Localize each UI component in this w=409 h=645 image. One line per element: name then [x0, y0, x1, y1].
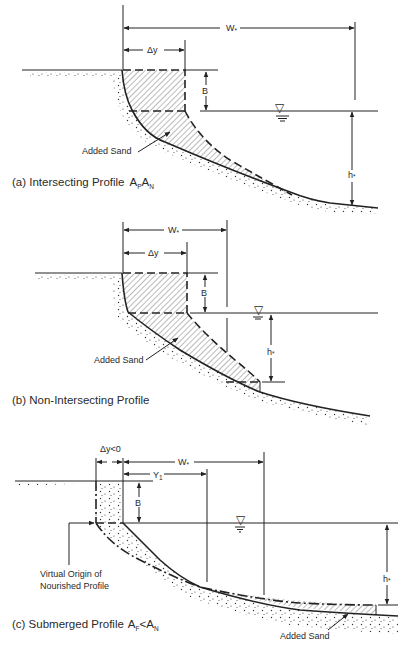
- water-level-icon: ▽: [275, 101, 285, 115]
- panel-b-non-intersecting-profile: ▽ W* Δy B h* Added Sand (b) Non-Intersec…: [12, 220, 378, 426]
- water-level-icon: ▽: [236, 513, 246, 527]
- label-h-star: h*: [383, 574, 391, 584]
- water-level-icon: ▽: [254, 303, 264, 317]
- label-h-star: h*: [348, 170, 356, 180]
- label-virtual-origin-line2: Nourished Profile: [40, 581, 109, 591]
- water-level-ticks: [253, 317, 263, 319]
- label-added-sand: Added Sand: [94, 355, 144, 365]
- label-b: B: [201, 288, 207, 298]
- caption-c: (c) Submerged ProfileAF<AN: [12, 618, 159, 632]
- caption-a: (a) Intersecting ProfileAPAN: [12, 176, 154, 190]
- water-level-ticks: [235, 527, 245, 532]
- label-h-star: h*: [267, 347, 275, 357]
- label-added-sand: Added Sand: [82, 146, 132, 156]
- label-y1: Y1: [153, 470, 163, 481]
- virtual-origin-pointer: [69, 523, 94, 565]
- water-level-ticks: [276, 116, 289, 121]
- nourished-profile-line: [96, 523, 376, 605]
- label-b: B: [202, 86, 208, 96]
- sand-texture: [18, 483, 398, 634]
- label-b: B: [135, 498, 141, 508]
- label-w-star: W*: [226, 23, 238, 34]
- caption-b: (b) Non-Intersecting Profile: [12, 394, 149, 406]
- panel-a-intersecting-profile: ▽ W* Δy B h* Added Sand (a) Intersecting…: [12, 5, 378, 214]
- beach-nourishment-profiles-diagram: ▽ W* Δy B h* Added Sand (a) Intersecting…: [0, 0, 409, 645]
- label-w-star: W*: [178, 457, 190, 468]
- panel-c-submerged-profile: ▽ Δy<0 W* Y1 B h* Virtual Origin of Nour…: [12, 444, 398, 641]
- label-delta-y-negative: Δy<0: [100, 444, 121, 454]
- label-delta-y: Δy: [148, 248, 159, 258]
- label-delta-y: Δy: [147, 45, 158, 55]
- label-virtual-origin-line1: Virtual Origin of: [40, 569, 102, 579]
- label-added-sand: Added Sand: [280, 631, 330, 641]
- label-w-star: W*: [168, 225, 180, 236]
